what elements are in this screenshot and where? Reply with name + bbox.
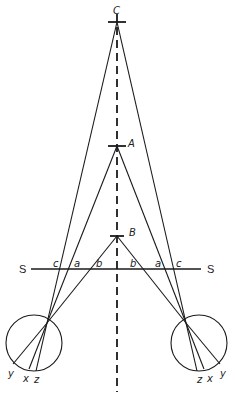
label-left-z: z xyxy=(33,374,40,385)
label-s-right: S xyxy=(207,263,214,275)
label-left-c: c xyxy=(53,258,59,269)
label-left-b: b xyxy=(96,258,102,269)
label-right-x: x xyxy=(206,373,213,384)
label-right-c: c xyxy=(176,258,182,269)
label-left-y: y xyxy=(7,368,15,379)
label-right-b: b xyxy=(130,258,136,269)
right-eye-circle xyxy=(171,315,227,371)
label-left-x: x xyxy=(22,373,29,384)
label-s-left: S xyxy=(19,263,26,275)
left-eye-circle xyxy=(6,315,62,371)
label-b: B xyxy=(129,227,136,238)
label-a: A xyxy=(127,138,135,149)
label-c: C xyxy=(113,5,120,16)
label-right-y: y xyxy=(219,368,227,379)
label-left-a: a xyxy=(74,258,80,269)
stereopsis-diagram: C A B S S c a b b a c y x z z x y xyxy=(0,0,235,395)
label-right-a: a xyxy=(155,258,161,269)
label-right-z: z xyxy=(196,374,203,385)
